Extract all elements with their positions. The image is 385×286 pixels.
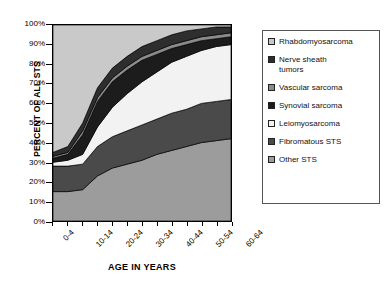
stacked-area-chart: PERCENT OF ALL STS 100%90%80%70%60%50%40…	[0, 0, 385, 286]
legend-label: Fibromatous STS	[279, 137, 341, 147]
y-tick-label: 70%	[11, 79, 45, 87]
legend-swatch-icon	[268, 120, 275, 127]
y-tick-mark	[46, 202, 52, 203]
x-tick-label: 50-54	[214, 228, 235, 249]
x-tick-mark	[82, 222, 83, 226]
y-tick-mark	[46, 182, 52, 183]
area-series-svg	[53, 25, 231, 221]
legend-label: Leiomyosarcoma	[279, 119, 340, 129]
y-axis-tick-labels: 100%90%80%70%60%50%40%30%20%10%0%	[11, 24, 45, 222]
x-tick-mark	[217, 222, 218, 226]
x-tick-label: 0-4	[61, 228, 76, 243]
chart-legend: RhabdomyosarcomaNerve sheath tumorsVascu…	[262, 30, 380, 204]
y-tick-label: 50%	[11, 119, 45, 127]
y-tick-mark	[46, 83, 52, 84]
y-tick-label: 60%	[11, 99, 45, 107]
legend-label: Synovial sarcoma	[279, 101, 342, 111]
x-tick-mark	[172, 222, 173, 226]
y-tick-mark	[46, 103, 52, 104]
legend-item-6[interactable]: Other STS	[268, 155, 375, 165]
y-tick-mark	[46, 123, 52, 124]
legend-swatch-icon	[268, 156, 275, 163]
y-tick-label: 80%	[11, 60, 45, 68]
x-tick-label: 20-24	[124, 228, 145, 249]
y-tick-label: 90%	[11, 40, 45, 48]
y-tick-mark	[46, 143, 52, 144]
legend-item-2[interactable]: Vascular sarcoma	[268, 83, 375, 93]
legend-swatch-icon	[268, 56, 275, 63]
y-tick-label: 30%	[11, 159, 45, 167]
y-tick-label: 0%	[11, 218, 45, 226]
legend-item-1[interactable]: Nerve sheath tumors	[268, 55, 375, 75]
x-tick-mark	[127, 222, 128, 226]
x-tick-mark	[157, 222, 158, 226]
x-axis-title: AGE IN YEARS	[52, 262, 232, 272]
x-tick-mark	[67, 222, 68, 226]
legend-swatch-icon	[268, 102, 275, 109]
x-tick-label: 40-44	[184, 228, 205, 249]
legend-swatch-icon	[268, 84, 275, 91]
x-tick-label: 10-14	[94, 228, 115, 249]
legend-item-5[interactable]: Fibromatous STS	[268, 137, 375, 147]
plot-area	[52, 24, 232, 222]
x-tick-mark	[142, 222, 143, 226]
x-tick-mark	[232, 222, 233, 226]
x-tick-label: 60-64	[244, 228, 265, 249]
x-tick-mark	[112, 222, 113, 226]
x-tick-mark	[52, 222, 53, 226]
y-tick-label: 40%	[11, 139, 45, 147]
legend-item-3[interactable]: Synovial sarcoma	[268, 101, 375, 111]
y-tick-mark	[46, 24, 52, 25]
y-tick-label: 100%	[11, 20, 45, 28]
legend-label: Vascular sarcoma	[279, 83, 342, 93]
legend-item-0[interactable]: Rhabdomyosarcoma	[268, 37, 375, 47]
legend-label: Other STS	[279, 155, 317, 165]
x-tick-mark	[187, 222, 188, 226]
y-tick-label: 20%	[11, 178, 45, 186]
legend-swatch-icon	[268, 38, 275, 45]
legend-label: Rhabdomyosarcoma	[279, 37, 353, 47]
x-tick-label: 30-34	[154, 228, 175, 249]
x-tick-mark	[97, 222, 98, 226]
y-tick-label: 10%	[11, 198, 45, 206]
y-tick-mark	[46, 64, 52, 65]
y-tick-mark	[46, 44, 52, 45]
legend-item-4[interactable]: Leiomyosarcoma	[268, 119, 375, 129]
x-tick-mark	[202, 222, 203, 226]
y-tick-mark	[46, 163, 52, 164]
legend-swatch-icon	[268, 138, 275, 145]
legend-label: Nerve sheath tumors	[279, 55, 327, 75]
